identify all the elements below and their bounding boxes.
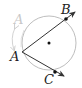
label-c: C xyxy=(44,72,54,87)
point-b xyxy=(64,17,68,21)
label-a-faded: A xyxy=(13,12,23,27)
center-point xyxy=(48,42,51,45)
motion-arrow-icon xyxy=(12,28,15,50)
ray-ac xyxy=(22,52,64,76)
label-a: A xyxy=(9,49,19,64)
label-b: B xyxy=(60,2,71,17)
inscribed-angle-diagram: A A B C xyxy=(0,0,82,88)
